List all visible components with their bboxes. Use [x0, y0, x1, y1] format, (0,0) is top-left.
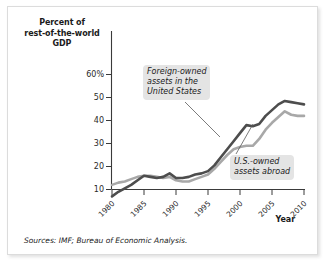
- annotation-us-owned-label: U.S.-owned assets abroad: [230, 155, 294, 180]
- y-axis-title: Percent of rest-of-the-world GDP: [16, 18, 108, 50]
- sources-note: Sources: IMF; Bureau of Economic Analysi…: [24, 236, 187, 245]
- y-tick-label-10: 10: [70, 185, 104, 194]
- series-line-foreign-owned-assets-in-us: [112, 101, 304, 196]
- x-axis-ticks: [112, 190, 304, 196]
- y-tick-label-20: 20: [70, 162, 104, 171]
- y-tick-label-60: 60%: [70, 70, 104, 79]
- leader-line-foreign-owned: [185, 102, 220, 137]
- y-tick-label-30: 30: [70, 139, 104, 148]
- chart-plot-area: Percent of rest-of-the-world GDP Year: [8, 7, 319, 256]
- y-tick-label-50: 50: [70, 93, 104, 102]
- y-tick-label-40: 40: [70, 116, 104, 125]
- figure-card: Percent of rest-of-the-world GDP Year: [7, 6, 318, 255]
- y-axis-ticks: [106, 75, 112, 190]
- annotation-foreign-owned-label: Foreign-owned assets in the United State…: [143, 65, 210, 100]
